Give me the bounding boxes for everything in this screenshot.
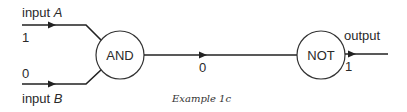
- output-label: output: [344, 29, 380, 42]
- and-gate-label: AND: [106, 49, 133, 62]
- input-a-label: input A: [22, 6, 62, 19]
- arrow-icon: [48, 22, 56, 29]
- wire-input-b: [22, 69, 102, 88]
- figure-caption: Example 1c: [172, 93, 231, 104]
- input-a-var: A: [54, 5, 63, 20]
- input-b-value: 0: [22, 67, 29, 80]
- arrow-icon: [348, 51, 356, 58]
- wire-input-a: [22, 22, 102, 42]
- input-b-var: B: [54, 91, 63, 106]
- input-a-value: 1: [22, 31, 29, 44]
- arrow-icon: [48, 81, 56, 88]
- wire-output: [345, 51, 388, 58]
- not-gate-label: NOT: [307, 49, 334, 62]
- input-a-prefix: input: [22, 5, 54, 20]
- output-value: 1: [345, 60, 352, 73]
- intermediate-value: 0: [199, 61, 206, 74]
- wire-and-to-not: [144, 52, 297, 59]
- input-b-label: input B: [22, 92, 62, 105]
- input-b-prefix: input: [22, 91, 54, 106]
- arrow-icon: [199, 52, 207, 59]
